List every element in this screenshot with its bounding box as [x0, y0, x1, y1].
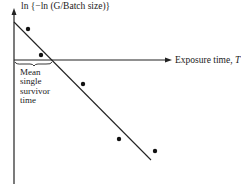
- x-axis-variable: T: [235, 55, 240, 65]
- mean-survivor-brace: [15, 62, 52, 66]
- y-axis-arrow-icon: [12, 8, 17, 15]
- data-point: [117, 137, 121, 141]
- annotation-line: time: [20, 96, 50, 105]
- data-point: [39, 53, 43, 57]
- x-axis-label-text: Exposure time,: [175, 55, 235, 65]
- x-axis-label: Exposure time, T: [175, 55, 240, 65]
- data-point: [26, 27, 30, 31]
- data-point: [153, 149, 157, 153]
- x-axis-arrow-icon: [165, 58, 172, 63]
- mean-survivor-annotation: Mean single survivor time: [20, 68, 50, 105]
- y-axis-label: ln {−ln (G/Batch size)}: [21, 1, 110, 11]
- data-point: [81, 82, 85, 86]
